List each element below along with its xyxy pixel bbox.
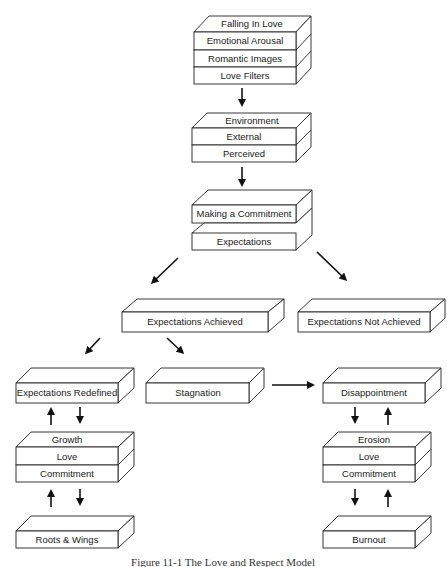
- arrow-achieved-to-redefined: [87, 338, 100, 352]
- falling-in-love-label: Falling In Love: [221, 18, 283, 29]
- node-expectations-redefined: Expectations Redefined: [16, 368, 134, 403]
- roots-wings-label: Roots & Wings: [36, 534, 99, 545]
- erosion-commitment-label: Commitment: [342, 468, 396, 479]
- node-expectations-achieved: Expectations Achieved: [122, 299, 284, 332]
- node-erosion-stack: Erosion Love Commitment: [323, 432, 431, 482]
- node-disappointment: Disappointment: [323, 368, 441, 403]
- burnout-label: Burnout: [352, 534, 386, 545]
- node-falling-in-love: Falling In Love Emotional Arousal Romant…: [194, 16, 311, 84]
- growth-love-label: Love: [57, 451, 78, 462]
- love-filters-label: Love Filters: [220, 70, 269, 81]
- node-roots-wings: Roots & Wings: [16, 516, 134, 548]
- erosion-label: Erosion: [358, 434, 390, 445]
- arrow-achieved-to-stagnation: [167, 338, 182, 352]
- expectations-not-achieved-label: Expectations Not Achieved: [307, 316, 420, 327]
- expectations-achieved-label: Expectations Achieved: [147, 316, 243, 327]
- node-burnout: Burnout: [323, 516, 431, 548]
- node-expectations-not-achieved: Expectations Not Achieved: [298, 299, 445, 332]
- node-growth-stack: Growth Love Commitment: [16, 432, 134, 482]
- node-stagnation: Stagnation: [146, 368, 264, 403]
- arrow-expectations-to-not-achieved: [317, 252, 345, 279]
- arrow-expectations-to-achieved: [153, 258, 178, 282]
- external-label: External: [227, 131, 262, 142]
- node-environment: Environment External Perceived: [192, 113, 311, 162]
- figure-caption: Figure 11-1 The Love and Respect Model: [131, 556, 315, 567]
- disappointment-label: Disappointment: [341, 387, 407, 398]
- expectations-label: Expectations: [217, 236, 272, 247]
- romantic-images-label: Romantic Images: [208, 53, 282, 64]
- making-commitment-label: Making a Commitment: [196, 208, 291, 219]
- expectations-redefined-label: Expectations Redefined: [17, 387, 117, 398]
- node-making-commitment: Making a Commitment: [192, 190, 312, 223]
- growth-label: Growth: [52, 434, 83, 445]
- growth-commitment-label: Commitment: [40, 468, 94, 479]
- stagnation-label: Stagnation: [175, 387, 220, 398]
- environment-label: Environment: [225, 115, 279, 126]
- perceived-label: Perceived: [223, 148, 265, 159]
- emotional-arousal-label: Emotional Arousal: [207, 35, 284, 46]
- erosion-love-label: Love: [359, 451, 380, 462]
- love-respect-model-diagram: Falling In Love Emotional Arousal Romant…: [0, 0, 447, 567]
